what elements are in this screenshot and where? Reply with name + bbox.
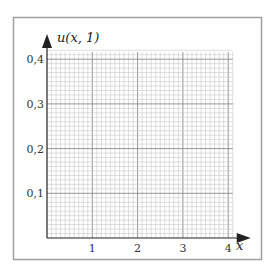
x-tick-label: 2	[134, 242, 141, 255]
x-axis-label: x	[236, 238, 244, 253]
y-tick-label: 0,3	[27, 98, 45, 111]
x-tick-label: 3	[179, 242, 186, 255]
x-tick-label: 4	[225, 242, 232, 255]
y-tick-label: 0,2	[27, 143, 45, 156]
x-tick-label: 1	[89, 242, 96, 255]
y-tick-label: 0,4	[27, 53, 45, 66]
y-axis-label: u(x, 1)	[57, 30, 99, 45]
chart: 12340,10,20,30,4 u(x, 1) x	[0, 0, 277, 271]
y-tick-label: 0,1	[27, 187, 45, 200]
